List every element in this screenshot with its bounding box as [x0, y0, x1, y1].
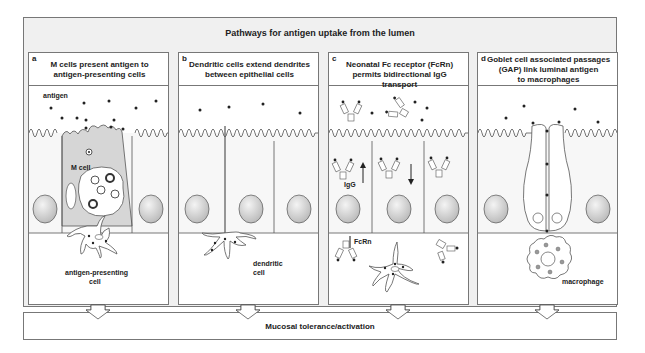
title-line: Neonatal Fc receptor (FcRn): [335, 60, 464, 70]
apc-label-1: antigen-presenting: [65, 269, 128, 277]
panel-c-title: c Neonatal Fc receptor (FcRn) permits bi…: [329, 53, 468, 86]
m-cell-label: M cell: [71, 164, 91, 171]
panel-b: b Dendritic cells extend dendrites betwe…: [178, 52, 319, 305]
panel-c: c Neonatal Fc receptor (FcRn) permits bi…: [328, 52, 469, 305]
arrow-overlay: [0, 300, 645, 330]
panel-d: d Goblet cell associated passages (GAP) …: [477, 52, 618, 305]
dendritic-label-1: dendritic: [253, 260, 283, 267]
igg-label: IgG: [344, 181, 356, 189]
antigen-label: antigen: [43, 92, 68, 100]
dendritic-label-2: cell: [253, 269, 265, 276]
title-line: (GAP) link luminal antigen: [484, 65, 613, 75]
goblet-cell-illustration: macrophage: [478, 86, 617, 304]
panel-a-title: a M cells present antigen to antigen-pre…: [29, 53, 168, 86]
title-line: antigen-presenting cells: [35, 70, 164, 80]
panel-b-title: b Dendritic cells extend dendrites betwe…: [179, 53, 318, 86]
diagram-title: Pathways for antigen uptake from the lum…: [24, 28, 616, 38]
title-line: Goblet cell associated passages: [484, 55, 613, 65]
fcrn-illustration: IgG FcRn: [329, 86, 468, 304]
panel-d-title: d Goblet cell associated passages (GAP) …: [478, 53, 617, 86]
title-line: Dendritic cells extend dendrites: [185, 60, 314, 70]
header-box: Pathways for antigen uptake from the lum…: [23, 17, 617, 52]
title-line: between epithelial cells: [185, 70, 314, 80]
fcrn-label: FcRn: [354, 238, 372, 245]
dendritic-cell-illustration: dendritic cell: [179, 86, 318, 304]
macrophage-label: macrophage: [562, 278, 604, 286]
apc-label-2: cell: [89, 278, 101, 285]
m-cell-illustration: antigen M cell antigen-presenting cell: [29, 86, 168, 304]
title-line: M cells present antigen to: [35, 60, 164, 70]
title-line: to macrophages: [484, 75, 613, 85]
panel-a: a M cells present antigen to antigen-pre…: [28, 52, 169, 305]
